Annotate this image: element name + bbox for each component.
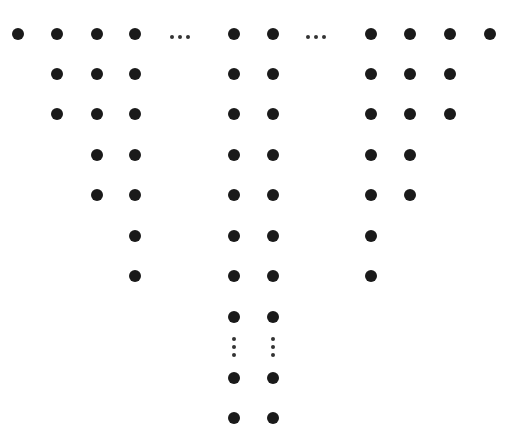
dot <box>228 311 240 323</box>
dot <box>228 68 240 80</box>
dot <box>228 149 240 161</box>
dot <box>267 412 279 424</box>
dot <box>228 108 240 120</box>
dot <box>228 412 240 424</box>
dot <box>444 108 456 120</box>
dot <box>267 311 279 323</box>
dot <box>129 149 141 161</box>
dot <box>228 189 240 201</box>
vertical-ellipsis <box>232 345 236 349</box>
dot <box>51 28 63 40</box>
dot <box>484 28 496 40</box>
dot <box>129 270 141 282</box>
dot <box>129 108 141 120</box>
dot <box>129 68 141 80</box>
horizontal-ellipsis <box>178 35 182 39</box>
vertical-ellipsis <box>271 353 275 357</box>
dot <box>404 108 416 120</box>
dot <box>91 189 103 201</box>
dot <box>12 28 24 40</box>
dot <box>91 28 103 40</box>
dot <box>51 108 63 120</box>
dot <box>404 149 416 161</box>
dot <box>51 68 63 80</box>
dot <box>444 68 456 80</box>
horizontal-ellipsis <box>170 35 174 39</box>
dot <box>228 372 240 384</box>
dot <box>267 189 279 201</box>
vertical-ellipsis <box>271 337 275 341</box>
dot <box>365 68 377 80</box>
dot <box>365 270 377 282</box>
vertical-ellipsis <box>232 337 236 341</box>
dot <box>365 149 377 161</box>
dot <box>267 108 279 120</box>
dot <box>129 189 141 201</box>
dot <box>444 28 456 40</box>
dot <box>129 28 141 40</box>
dot <box>267 149 279 161</box>
dot <box>404 68 416 80</box>
dot <box>267 230 279 242</box>
vertical-ellipsis <box>232 353 236 357</box>
dot <box>228 230 240 242</box>
dot <box>91 108 103 120</box>
dot <box>404 28 416 40</box>
dot <box>228 28 240 40</box>
vertical-ellipsis <box>271 345 275 349</box>
dot <box>267 28 279 40</box>
dot <box>267 372 279 384</box>
dot <box>365 230 377 242</box>
horizontal-ellipsis <box>186 35 190 39</box>
dot <box>91 149 103 161</box>
dot <box>267 68 279 80</box>
dot <box>404 189 416 201</box>
dot <box>267 270 279 282</box>
dot <box>129 230 141 242</box>
dot <box>365 189 377 201</box>
horizontal-ellipsis <box>314 35 318 39</box>
dot <box>365 108 377 120</box>
dot <box>365 28 377 40</box>
horizontal-ellipsis <box>306 35 310 39</box>
dot <box>228 270 240 282</box>
dot <box>91 68 103 80</box>
horizontal-ellipsis <box>322 35 326 39</box>
